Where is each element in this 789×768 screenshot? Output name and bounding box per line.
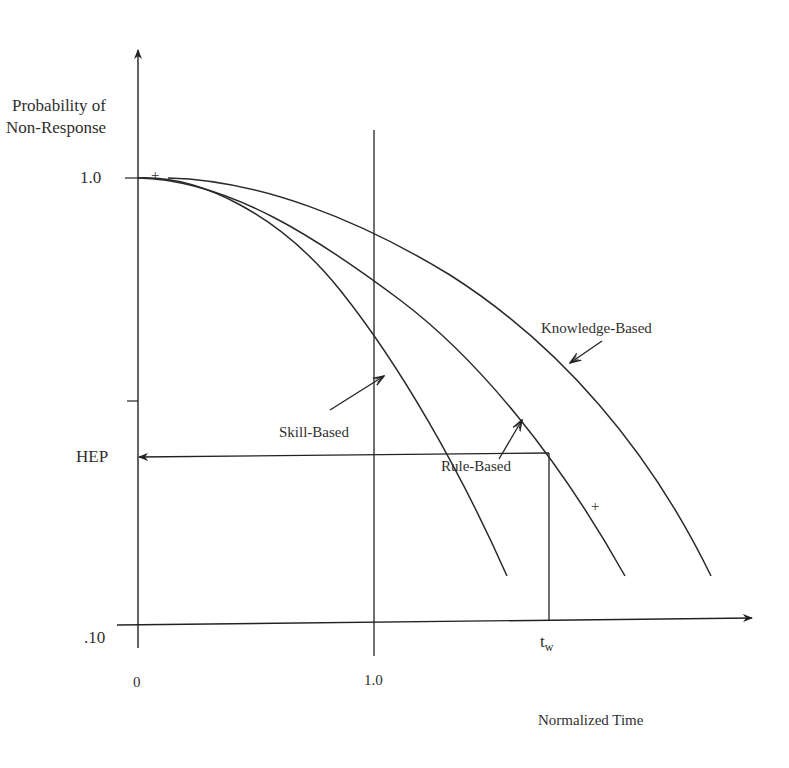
skill-based-label: Skill-Based [279,424,349,441]
knowledge-based-label: Knowledge-Based [541,320,652,337]
x-axis [117,618,752,625]
x-tick-label-one: 1.0 [364,672,383,689]
tw-subscript: w [545,640,554,654]
hep-label: HEP [76,447,108,467]
plus-marker-rule: + [591,498,599,515]
hep-arrow [139,453,549,457]
x-tick-label-zero: 0 [133,674,141,691]
knowledge-pointer-arrow [570,341,602,363]
y-tick-label-top: 1.0 [80,168,101,188]
y-tick-label-bottom: .10 [84,628,105,648]
y-axis-label-line2: Non-Response [6,118,106,138]
diagram-canvas [0,0,789,768]
tw-label: tw [540,632,553,655]
skill-pointer-arrow [330,376,384,410]
skill-based-curve [138,178,507,576]
knowledge-based-curve [168,178,711,576]
rule-based-label: Rule-Based [441,458,511,475]
y-axis-label-line1: Probability of [12,96,106,116]
x-axis-label: Normalized Time [538,712,643,729]
plus-marker-top: + [151,167,159,184]
